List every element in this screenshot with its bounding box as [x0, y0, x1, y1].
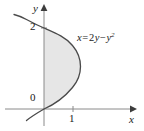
shaded-region: [44, 28, 81, 109]
x-axis-label: x: [129, 114, 134, 125]
equation-first-y: y: [95, 32, 100, 43]
equation-variable-x: x: [77, 32, 82, 43]
equation-equals-sign: =: [82, 32, 89, 43]
x-axis-arrow-icon: [130, 106, 137, 113]
y-axis-arrow-icon: [41, 4, 48, 11]
x-tick-label-1: 1: [69, 113, 75, 124]
y-axis-label: y: [33, 3, 38, 14]
equation-annotation: x=2y−y2: [77, 33, 115, 44]
equation-exponent: 2: [111, 31, 115, 39]
y-tick-label-2: 2: [30, 21, 36, 32]
origin-label: 0: [30, 92, 36, 103]
math-figure: y x 2 0 1 x=2y−y2: [0, 0, 144, 131]
